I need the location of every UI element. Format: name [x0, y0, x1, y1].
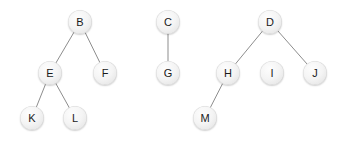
tree-node-m[interactable]: M: [193, 106, 217, 130]
tree-edge: [55, 31, 74, 64]
tree-node-j[interactable]: J: [303, 61, 327, 85]
tree-edge: [210, 82, 223, 108]
tree-node-label: J: [312, 68, 318, 79]
tree-node-label: C: [164, 17, 172, 28]
tree-node-label: M: [200, 113, 209, 124]
tree-node-b[interactable]: B: [68, 10, 92, 34]
tree-node-label: F: [102, 68, 109, 79]
tree-node-label: E: [46, 68, 53, 79]
tree-node-d[interactable]: D: [258, 10, 282, 34]
tree-node-label: L: [72, 113, 78, 124]
tree-node-g[interactable]: G: [156, 61, 180, 85]
tree-node-label: H: [224, 68, 232, 79]
tree-edge: [36, 83, 46, 109]
tree-node-f[interactable]: F: [93, 61, 117, 85]
tree-node-label: D: [266, 17, 274, 28]
tree-edge: [85, 31, 101, 63]
tree-node-label: I: [270, 68, 273, 79]
tree-node-label: G: [164, 68, 173, 79]
tree-node-label: K: [28, 113, 35, 124]
tree-node-k[interactable]: K: [20, 106, 44, 130]
forest-diagram-canvas: BEFKLCGDHIJM: [0, 0, 345, 142]
tree-edge: [55, 82, 70, 109]
tree-node-i[interactable]: I: [260, 61, 284, 85]
tree-node-label: B: [76, 17, 83, 28]
tree-edge: [235, 30, 264, 65]
tree-node-l[interactable]: L: [63, 106, 87, 130]
tree-node-c[interactable]: C: [156, 10, 180, 34]
tree-node-e[interactable]: E: [38, 61, 62, 85]
tree-edge: [277, 30, 308, 65]
tree-node-h[interactable]: H: [216, 61, 240, 85]
